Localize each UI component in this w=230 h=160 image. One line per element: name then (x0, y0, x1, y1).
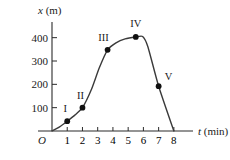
y-axis-label: x (m) (37, 4, 62, 17)
origin-label: O (38, 134, 46, 146)
x-tick-label: 4 (110, 134, 116, 146)
data-point-III (105, 47, 111, 53)
x-tick-label: 2 (80, 134, 86, 146)
x-axis-label-unit: (min) (204, 125, 229, 138)
chart-canvas: 100200300400 12345678 IIIIIIIVV O x (m) … (0, 0, 230, 160)
x-tick-label: 3 (95, 134, 101, 146)
x-tick-label: 7 (156, 134, 162, 146)
x-axis-ticks-group (67, 127, 174, 131)
data-point-label-III: III (98, 32, 109, 43)
data-point-label-II: II (77, 90, 84, 101)
data-point-label-I: I (63, 103, 67, 114)
y-axis-tick-labels-group: 100200300400 (32, 32, 49, 114)
position-time-graph-figure: 100200300400 12345678 IIIIIIIVV O x (m) … (0, 0, 230, 160)
x-tick-label: 8 (171, 134, 177, 146)
x-tick-label: 5 (125, 134, 131, 146)
y-tick-label: 200 (32, 78, 49, 90)
data-point-label-IV: IV (130, 18, 141, 29)
data-point-label-V: V (165, 71, 173, 82)
x-tick-label: 6 (141, 134, 147, 146)
position-curve (52, 36, 174, 131)
data-point-II (80, 105, 86, 111)
y-tick-label: 300 (32, 55, 49, 67)
data-point-I (64, 118, 70, 124)
data-point-IV (133, 34, 139, 40)
y-axis-label-unit: (m) (46, 4, 62, 17)
data-point-labels-group: IIIIIIIVV (63, 18, 172, 114)
x-axis-tick-labels-group: 12345678 (64, 134, 177, 146)
x-tick-label: 1 (64, 134, 70, 146)
y-tick-label: 100 (32, 102, 49, 114)
data-points-group (64, 34, 161, 124)
x-axis-label: t (min) (198, 125, 229, 138)
y-tick-label: 400 (32, 32, 49, 44)
y-axis-ticks-group (52, 38, 57, 108)
data-point-V (156, 83, 162, 89)
